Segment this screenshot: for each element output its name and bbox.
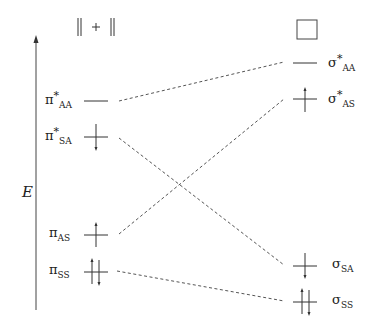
orbital-level-pi-star-SA: π*SA — [45, 124, 108, 151]
correlation-pi-star-AA-to-sigma-star-AA — [119, 62, 284, 101]
square-icon — [297, 20, 317, 39]
orbital-level-pi-SS: πSS — [49, 258, 108, 286]
left-orbital-levels: π*AA π*SA πAS πSS — [45, 89, 108, 286]
orbital-label: πSS — [49, 262, 70, 280]
orbital-level-pi-star-AA: π*AA — [45, 89, 108, 110]
axis-label: E — [21, 183, 33, 201]
orbital-label: σSS — [332, 292, 353, 310]
orbital-label: π*SA — [45, 125, 72, 146]
energy-axis: E — [21, 35, 39, 310]
right-orbital-levels: σ*AA σ*AS σSA — [293, 52, 356, 316]
orbital-label: πAS — [49, 225, 70, 243]
axis-arrow-icon — [34, 35, 39, 43]
correlation-pi-AS-to-sigma-star-AS — [119, 99, 284, 234]
correlation-pi-star-SA-to-sigma-SA — [119, 138, 284, 265]
orbital-label: σ*AA — [328, 52, 356, 73]
correlation-lines — [117, 62, 284, 301]
orbital-level-sigma-SA: σSA — [293, 253, 354, 279]
orbital-level-sigma-star-AA: σ*AA — [293, 52, 356, 73]
parallel-plus-parallel-icon — [78, 18, 114, 36]
right-header — [297, 20, 317, 39]
orbital-label: σ*AS — [328, 88, 355, 109]
orbital-level-sigma-star-AS: σ*AS — [293, 87, 355, 112]
orbital-label: π*AA — [45, 89, 73, 110]
correlation-pi-SS-to-sigma-SS — [117, 271, 284, 301]
orbital-level-sigma-SS: σSS — [293, 288, 353, 316]
left-header — [78, 18, 114, 36]
orbital-level-pi-AS: πAS — [49, 222, 108, 247]
mo-correlation-diagram: E π*AA π*SA — [0, 0, 375, 335]
orbital-label: σSA — [332, 256, 354, 274]
